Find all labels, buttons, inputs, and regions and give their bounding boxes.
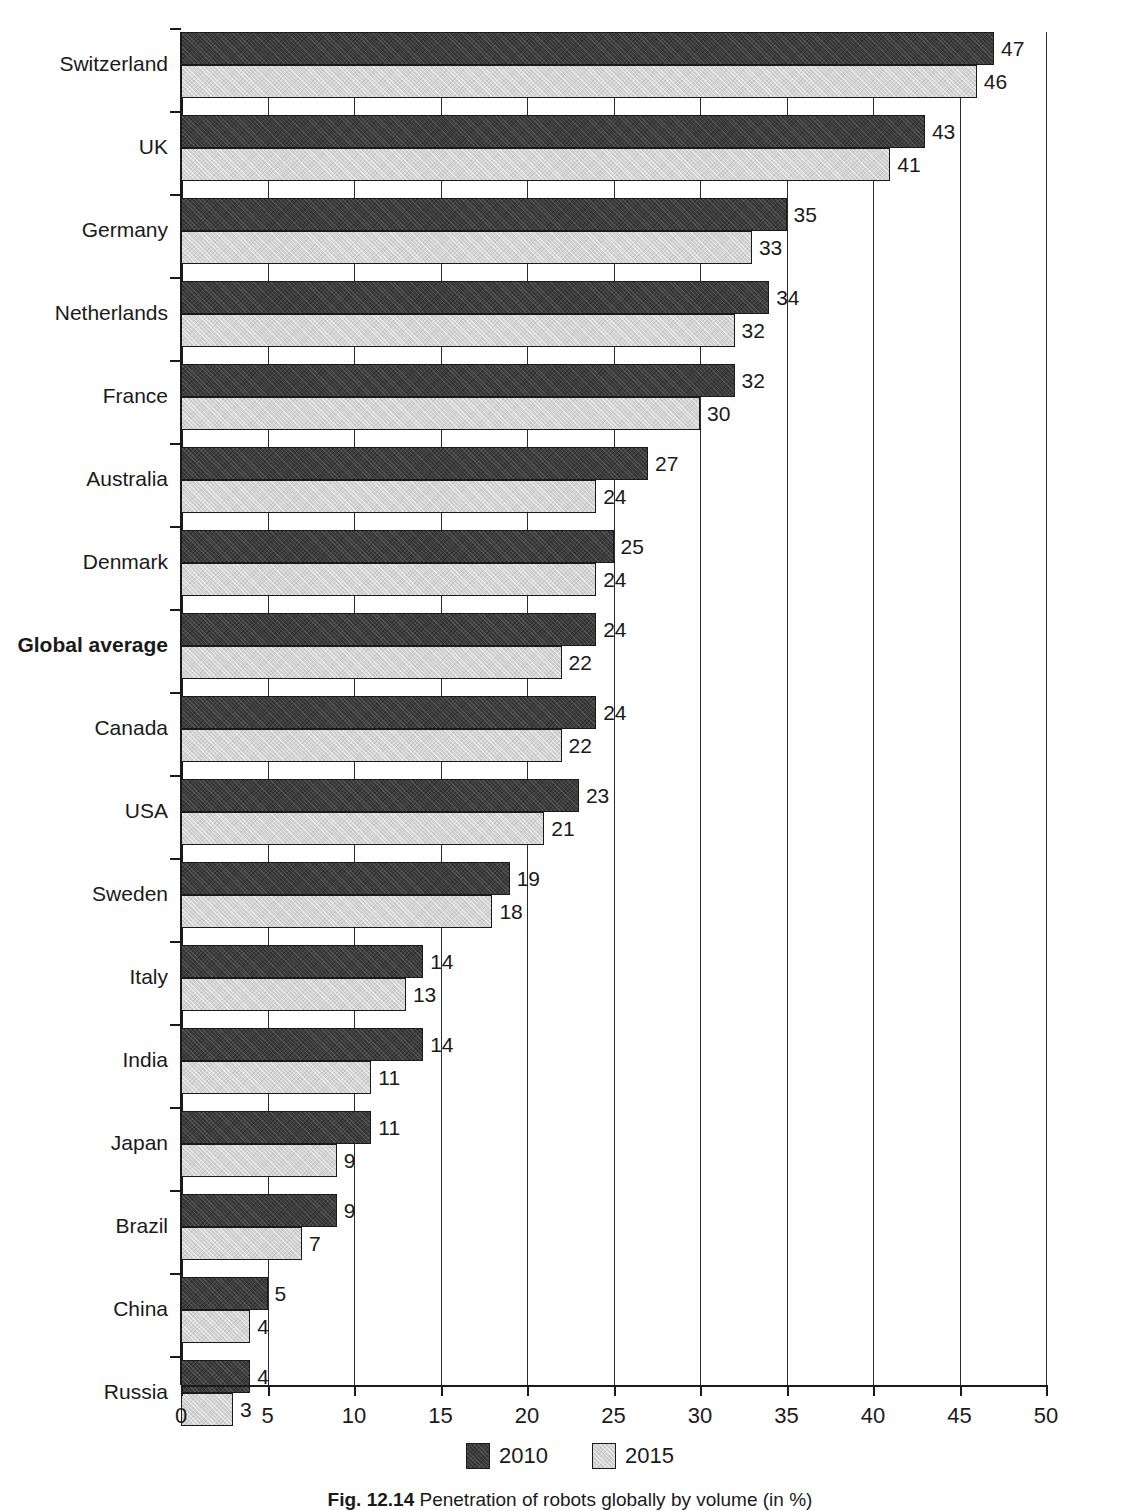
bar-canada-2010 <box>181 696 596 729</box>
value-label-japan-2010: 11 <box>378 1111 400 1144</box>
bar-india-2015 <box>181 1061 371 1094</box>
category-label-japan: Japan <box>111 1131 168 1155</box>
category-label-russia: Russia <box>104 1380 168 1404</box>
value-label-germany-2015: 33 <box>759 231 782 264</box>
gridline-50 <box>1046 32 1047 1385</box>
x-tick-15 <box>441 1385 443 1396</box>
legend-label-2015: 2015 <box>625 1443 674 1469</box>
x-tick-45 <box>960 1385 962 1396</box>
x-tick-label-25: 25 <box>601 1403 625 1429</box>
y-axis-spine <box>180 32 182 1385</box>
bar-netherlands-2015 <box>181 314 735 347</box>
value-label-italy-2010: 14 <box>430 945 453 978</box>
bar-usa-2010 <box>181 779 579 812</box>
x-tick-label-45: 45 <box>947 1403 971 1429</box>
x-tick-label-0: 0 <box>175 1403 187 1429</box>
value-label-australia-2010: 27 <box>655 447 678 480</box>
value-label-sweden-2015: 18 <box>499 895 522 928</box>
dark-hatched-swatch <box>466 1443 490 1469</box>
value-label-usa-2010: 23 <box>586 779 609 812</box>
y-tick-global-average <box>170 609 181 611</box>
gridline-35 <box>787 32 788 1385</box>
category-label-australia: Australia <box>86 467 168 491</box>
y-tick-japan <box>170 1107 181 1109</box>
category-label-china: China <box>113 1297 168 1321</box>
bar-brazil-2015 <box>181 1227 302 1260</box>
value-label-sweden-2010: 19 <box>517 862 540 895</box>
y-tick-switzerland <box>170 28 181 30</box>
bar-australia-2010 <box>181 447 648 480</box>
bar-switzerland-2015 <box>181 65 977 98</box>
y-tick-germany <box>170 194 181 196</box>
value-label-brazil-2015: 7 <box>309 1227 321 1260</box>
value-label-india-2015: 11 <box>378 1061 400 1094</box>
bar-france-2010 <box>181 364 735 397</box>
bar-france-2015 <box>181 397 700 430</box>
x-tick-label-10: 10 <box>342 1403 366 1429</box>
bar-denmark-2015 <box>181 563 596 596</box>
category-label-usa: USA <box>125 799 168 823</box>
gridline-45 <box>960 32 961 1385</box>
bar-usa-2015 <box>181 812 544 845</box>
bar-germany-2010 <box>181 198 787 231</box>
y-tick-india <box>170 1024 181 1026</box>
x-tick-label-50: 50 <box>1034 1403 1058 1429</box>
value-label-uk-2015: 41 <box>897 148 920 181</box>
value-label-india-2010: 14 <box>430 1028 453 1061</box>
y-tick-netherlands <box>170 277 181 279</box>
bar-switzerland-2010 <box>181 32 994 65</box>
value-label-usa-2015: 21 <box>551 812 574 845</box>
value-label-france-2015: 30 <box>707 397 730 430</box>
category-label-uk: UK <box>139 135 168 159</box>
y-tick-russia <box>170 1356 181 1358</box>
bar-global-average-2010 <box>181 613 596 646</box>
y-tick-brazil <box>170 1190 181 1192</box>
category-label-switzerland: Switzerland <box>59 52 168 76</box>
value-label-denmark-2010: 25 <box>621 530 644 563</box>
y-tick-usa <box>170 775 181 777</box>
bar-china-2010 <box>181 1277 268 1310</box>
value-label-italy-2015: 13 <box>413 978 436 1011</box>
value-label-australia-2015: 24 <box>603 480 626 513</box>
value-label-russia-2010: 4 <box>257 1360 269 1393</box>
y-tick-australia <box>170 443 181 445</box>
bar-denmark-2010 <box>181 530 614 563</box>
legend-item-2015[interactable]: 2015 <box>592 1443 674 1469</box>
category-label-netherlands: Netherlands <box>55 301 168 325</box>
bar-india-2010 <box>181 1028 423 1061</box>
figure-number: Fig. 12.14 <box>328 1489 415 1510</box>
category-label-canada: Canada <box>94 716 168 740</box>
value-label-china-2015: 4 <box>257 1310 269 1343</box>
x-tick-label-30: 30 <box>688 1403 712 1429</box>
x-tick-35 <box>787 1385 789 1396</box>
bar-sweden-2015 <box>181 895 492 928</box>
x-tick-label-40: 40 <box>861 1403 885 1429</box>
bar-italy-2015 <box>181 978 406 1011</box>
category-label-brazil: Brazil <box>115 1214 168 1238</box>
figure-caption-text: Penetration of robots globally by volume… <box>420 1489 813 1510</box>
value-label-germany-2010: 35 <box>794 198 817 231</box>
chart-legend: 20102015 <box>0 1443 1140 1469</box>
x-tick-30 <box>700 1385 702 1396</box>
y-tick-sweden <box>170 858 181 860</box>
value-label-switzerland-2010: 47 <box>1001 32 1024 65</box>
category-label-italy: Italy <box>129 965 168 989</box>
value-label-france-2010: 32 <box>742 364 765 397</box>
bar-brazil-2010 <box>181 1194 337 1227</box>
x-tick-label-15: 15 <box>428 1403 452 1429</box>
y-tick-canada <box>170 692 181 694</box>
bar-sweden-2010 <box>181 862 510 895</box>
value-label-brazil-2010: 9 <box>344 1194 356 1227</box>
bar-uk-2015 <box>181 148 890 181</box>
value-label-canada-2015: 22 <box>569 729 592 762</box>
y-tick-denmark <box>170 526 181 528</box>
bar-russia-2015 <box>181 1393 233 1426</box>
legend-item-2010[interactable]: 2010 <box>466 1443 548 1469</box>
x-tick-40 <box>873 1385 875 1396</box>
y-tick-china <box>170 1273 181 1275</box>
value-label-netherlands-2010: 34 <box>776 281 799 314</box>
value-label-switzerland-2015: 46 <box>984 65 1007 98</box>
x-tick-50 <box>1046 1385 1048 1396</box>
bar-italy-2010 <box>181 945 423 978</box>
